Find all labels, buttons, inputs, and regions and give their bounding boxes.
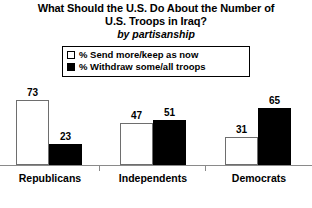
bar-democrats-withdraw	[258, 108, 291, 165]
chart-figure: What Should the U.S. Do About the Number…	[0, 0, 312, 208]
bar-value-independents-withdraw: 51	[149, 107, 190, 118]
plot-area: 73 23 47 51 31 65 Republicans Independen…	[0, 0, 312, 208]
bar-value-republicans-send-more: 73	[12, 87, 53, 98]
x-axis-label-republicans: Republicans	[4, 172, 96, 185]
x-axis-label-democrats: Democrats	[214, 172, 304, 185]
bar-republicans-withdraw	[49, 144, 82, 165]
x-axis-label-independents: Independents	[106, 172, 200, 185]
bar-value-democrats-send-more: 31	[221, 124, 262, 135]
x-axis-tick	[205, 166, 206, 171]
bar-independents-withdraw	[153, 120, 186, 165]
x-axis-tick	[99, 166, 100, 171]
bar-value-republicans-withdraw: 23	[45, 131, 86, 142]
bar-independents-send-more	[120, 123, 153, 165]
bar-value-democrats-withdraw: 65	[254, 95, 295, 106]
bar-democrats-send-more	[225, 137, 258, 165]
x-axis-line	[0, 165, 312, 166]
